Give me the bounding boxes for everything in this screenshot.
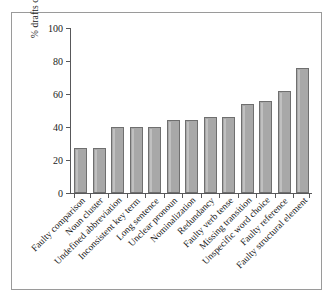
y-tick-label: 100 xyxy=(48,24,63,34)
y-tick: 100 xyxy=(66,28,70,29)
bar xyxy=(241,104,254,193)
y-tick-label: 40 xyxy=(53,123,63,133)
bar xyxy=(93,148,106,193)
y-tick: 40 xyxy=(66,127,70,128)
y-tick-label: 20 xyxy=(53,156,63,166)
bar xyxy=(111,127,124,193)
bar xyxy=(222,117,235,193)
y-tick-label: 60 xyxy=(53,90,63,100)
y-tick-label: 80 xyxy=(53,57,63,67)
bar xyxy=(130,127,143,193)
x-axis-labels: Faulty comparisonNoun clusterUndefined a… xyxy=(71,196,321,291)
bar-series xyxy=(71,28,312,193)
y-tick: 80 xyxy=(66,61,70,62)
bar xyxy=(148,127,161,193)
bar xyxy=(204,117,217,193)
y-tick: 60 xyxy=(66,94,70,95)
plot-area: 020406080100 xyxy=(70,28,312,209)
bar xyxy=(185,120,198,193)
y-tick: 20 xyxy=(66,160,70,161)
y-tick: 0 xyxy=(66,193,70,194)
bar xyxy=(278,91,291,193)
y-tick-label: 0 xyxy=(58,189,63,199)
y-axis-title: % drafts containing this error xyxy=(30,0,40,38)
chart-figure: % drafts containing this error 020406080… xyxy=(11,12,322,290)
bar xyxy=(259,101,272,193)
bar xyxy=(296,68,309,193)
bar xyxy=(167,120,180,193)
bar xyxy=(74,148,87,193)
